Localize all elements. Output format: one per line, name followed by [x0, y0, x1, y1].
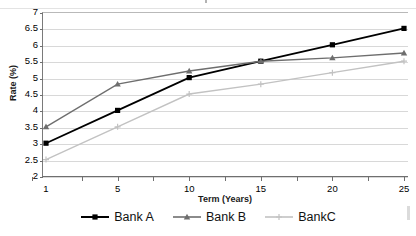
y-tick-label: 3	[8, 138, 38, 148]
x-tick-mark-minor	[153, 177, 154, 181]
scan-artifact	[205, 0, 207, 3]
legend-marker-icon	[80, 211, 110, 223]
x-tick-mark-minor	[82, 177, 83, 181]
y-tick-label: 6.5	[8, 24, 38, 34]
x-axis-title: Term (Years)	[42, 194, 408, 204]
y-tick-label: 2.5	[8, 155, 38, 165]
y-tick-label: 4	[8, 106, 38, 116]
legend-marker-icon	[172, 211, 202, 223]
x-tick-mark-minor	[225, 177, 226, 181]
y-tick-label: 2	[8, 171, 38, 181]
data-point-marker	[258, 81, 264, 87]
legend-marker-icon	[264, 211, 294, 223]
x-tick-mark	[189, 177, 190, 181]
x-tick-label: 10	[169, 183, 209, 194]
legend-label: Bank B	[206, 210, 246, 224]
data-point-marker	[329, 70, 335, 76]
data-point-marker	[93, 214, 98, 219]
x-tick-label: 5	[98, 183, 138, 194]
data-point-marker	[43, 141, 48, 146]
x-tick-label: 20	[312, 183, 352, 194]
series-bankc	[43, 58, 407, 162]
scan-edge-line	[0, 8, 416, 9]
data-point-marker	[43, 124, 49, 130]
data-point-marker	[186, 91, 192, 97]
data-point-marker	[187, 75, 192, 80]
legend-item-bankc[interactable]: BankC	[264, 210, 336, 224]
x-tick-label: 15	[241, 183, 281, 194]
x-tick-mark-minor	[297, 177, 298, 181]
x-tick-mark	[404, 177, 405, 181]
x-tick-mark	[332, 177, 333, 181]
y-tick-mark	[40, 177, 43, 178]
data-point-marker	[115, 124, 121, 130]
y-tick-label: 4.5	[8, 89, 38, 99]
chart-legend: Bank ABank BBankC	[0, 210, 416, 224]
y-tick-label: 6	[8, 40, 38, 50]
y-tick-label: 3.5	[8, 122, 38, 132]
series-line	[46, 28, 404, 143]
series-line	[46, 61, 404, 159]
series-bank-a	[43, 26, 406, 146]
legend-item-bank-b[interactable]: Bank B	[172, 210, 246, 224]
y-tick-label: 5.5	[8, 56, 38, 66]
data-point-marker	[43, 157, 49, 163]
series-layer	[42, 12, 408, 176]
x-tick-label: 25	[384, 183, 416, 194]
series-line	[46, 53, 404, 127]
x-tick-mark	[261, 177, 262, 181]
data-point-marker	[330, 42, 335, 47]
data-point-marker	[276, 214, 282, 220]
x-tick-mark-minor	[368, 177, 369, 181]
y-tick-label: 5	[8, 73, 38, 83]
line-chart: Rate (%) 76.565.554.543.532.52 151015202…	[0, 0, 416, 236]
legend-label: BankC	[298, 210, 336, 224]
legend-item-bank-a[interactable]: Bank A	[80, 210, 154, 224]
x-tick-mark	[118, 177, 119, 181]
x-tick-label: 1	[26, 183, 66, 194]
x-tick-mark	[32, 177, 33, 181]
y-tick-label: 7	[8, 7, 38, 17]
y-axis-tick-labels: 76.565.554.543.532.52	[8, 12, 38, 176]
data-point-marker	[401, 26, 406, 31]
data-point-marker	[115, 108, 120, 113]
data-point-marker	[401, 58, 407, 64]
legend-label: Bank A	[114, 210, 154, 224]
